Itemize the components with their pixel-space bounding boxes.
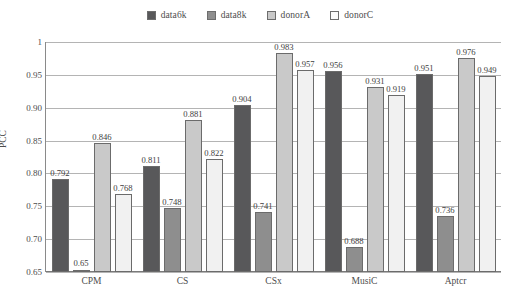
bar-slot: 0.65: [73, 42, 90, 272]
bar-group-CPM: 0.7920.650.8460.768CPM: [46, 42, 137, 272]
bar-value-label: 0.811: [141, 155, 160, 165]
y-axis-tick-label: 0.65: [26, 267, 42, 277]
bar-data6k-MusiC[interactable]: [325, 71, 342, 272]
bar-data6k-Aptcr[interactable]: [416, 74, 433, 272]
y-axis-tick-label: 0.80: [26, 168, 42, 178]
bar-slot: 0.951: [416, 42, 433, 272]
bar-value-label: 0.741: [253, 201, 272, 211]
bar-group-CS: 0.8110.7480.8810.822CS: [137, 42, 228, 272]
bar-value-label: 0.951: [414, 63, 433, 73]
bar-group-Aptcr: 0.9510.7360.9760.949Aptcr: [410, 42, 501, 272]
y-axis-tick-label: 0.90: [26, 103, 42, 113]
bar-slot: 0.792: [52, 42, 69, 272]
bar-slot: 0.741: [255, 42, 272, 272]
bar-slot: 0.748: [164, 42, 181, 272]
bar-donorC-CS[interactable]: [206, 159, 223, 272]
bar-donorA-MusiC[interactable]: [367, 87, 384, 272]
bar-value-label: 0.688: [344, 236, 363, 246]
bar-donorA-CS[interactable]: [185, 120, 202, 272]
bar-donorC-MusiC[interactable]: [388, 95, 405, 272]
bar-value-label: 0.919: [386, 84, 405, 94]
legend-label: data6k: [161, 10, 187, 20]
bar-slot: 0.736: [437, 42, 454, 272]
bar-value-label: 0.792: [50, 168, 69, 178]
chart-legend: data6kdata8kdonorAdonorC: [0, 6, 520, 24]
y-axis-tick-label: 1: [38, 37, 43, 47]
chart-container: data6kdata8kdonorAdonorC 0.650.700.750.8…: [0, 0, 520, 296]
bar-value-label: 0.956: [323, 60, 342, 70]
legend-item-donorA: donorA: [267, 10, 311, 20]
legend-swatch-icon: [330, 11, 339, 20]
x-axis-category-label: CS: [137, 276, 228, 286]
bar-group-MusiC: 0.9560.6880.9310.919MusiC: [319, 42, 410, 272]
bar-slot: 0.904: [234, 42, 251, 272]
bar-value-label: 0.822: [204, 148, 223, 158]
bar-data8k-MusiC[interactable]: [346, 247, 363, 272]
legend-label: donorC: [344, 10, 373, 20]
bar-donorA-CSx[interactable]: [276, 53, 293, 272]
bar-data8k-CSx[interactable]: [255, 212, 272, 272]
x-axis-category-label: Aptcr: [410, 276, 501, 286]
bar-group-CSx: 0.9040.7410.9830.957CSx: [228, 42, 319, 272]
bar-slot: 0.919: [388, 42, 405, 272]
bar-data6k-CPM[interactable]: [52, 179, 69, 272]
bar-value-label: 0.881: [183, 109, 202, 119]
bar-slot: 0.931: [367, 42, 384, 272]
gridline: [46, 272, 501, 273]
bar-value-label: 0.736: [435, 205, 454, 215]
bar-slot: 0.822: [206, 42, 223, 272]
bar-donorC-CPM[interactable]: [115, 194, 132, 272]
bar-value-label: 0.983: [274, 42, 293, 52]
bar-value-label: 0.957: [295, 59, 314, 69]
bar-slot: 0.688: [346, 42, 363, 272]
legend-item-data8k: data8k: [207, 10, 247, 20]
bar-value-label: 0.768: [113, 183, 132, 193]
y-axis-tick-labels: 0.650.700.750.800.850.900.951: [0, 0, 42, 296]
bar-donorA-Aptcr[interactable]: [458, 58, 475, 272]
bar-donorC-CSx[interactable]: [297, 70, 314, 272]
bar-data6k-CS[interactable]: [143, 166, 160, 272]
bar-slot: 0.949: [479, 42, 496, 272]
bar-value-label: 0.904: [232, 94, 251, 104]
bar-data8k-CPM[interactable]: [73, 270, 90, 272]
bar-data6k-CSx[interactable]: [234, 105, 251, 272]
bar-value-label: 0.976: [456, 47, 475, 57]
legend-item-data6k: data6k: [147, 10, 187, 20]
bar-value-label: 0.931: [365, 76, 384, 86]
plot-area: 0.7920.650.8460.768CPM0.8110.7480.8810.8…: [46, 42, 501, 272]
bar-slot: 0.846: [94, 42, 111, 272]
x-axis-category-label: CSx: [228, 276, 319, 286]
bar-donorA-CPM[interactable]: [94, 143, 111, 272]
bar-slot: 0.983: [276, 42, 293, 272]
bar-value-label: 0.65: [73, 258, 88, 268]
bar-slot: 0.976: [458, 42, 475, 272]
bar-value-label: 0.846: [92, 132, 111, 142]
y-axis-tick-label: 0.70: [26, 234, 42, 244]
bar-data8k-CS[interactable]: [164, 208, 181, 272]
x-axis-category-label: CPM: [46, 276, 137, 286]
legend-swatch-icon: [147, 11, 156, 20]
bar-value-label: 0.748: [162, 197, 181, 207]
bar-slot: 0.956: [325, 42, 342, 272]
y-axis-title: PCC: [0, 130, 8, 148]
y-axis-tick-label: 0.95: [26, 70, 42, 80]
bar-slot: 0.881: [185, 42, 202, 272]
legend-label: data8k: [221, 10, 247, 20]
legend-swatch-icon: [267, 11, 276, 20]
bar-value-label: 0.949: [477, 65, 496, 75]
bar-donorC-Aptcr[interactable]: [479, 76, 496, 272]
bar-slot: 0.768: [115, 42, 132, 272]
bar-slot: 0.811: [143, 42, 160, 272]
y-axis-tick-label: 0.85: [26, 136, 42, 146]
legend-label: donorA: [281, 10, 311, 20]
legend-swatch-icon: [207, 11, 216, 20]
bar-data8k-Aptcr[interactable]: [437, 216, 454, 273]
bar-slot: 0.957: [297, 42, 314, 272]
y-axis-tick-label: 0.75: [26, 201, 42, 211]
x-axis-category-label: MusiC: [319, 276, 410, 286]
legend-item-donorC: donorC: [330, 10, 373, 20]
